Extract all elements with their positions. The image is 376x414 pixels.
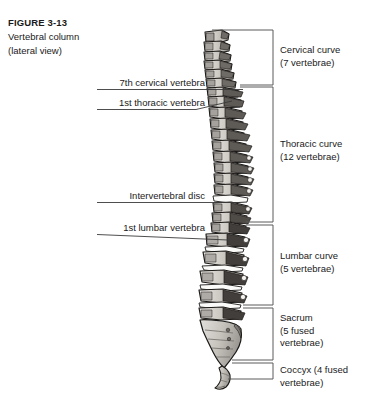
right-label-lumbar-curve: Lumbar curve (5 vertebrae) xyxy=(280,250,338,275)
right-label-line1: Cervical curve xyxy=(280,44,340,57)
bracket-coccyx xyxy=(228,363,273,379)
figure-vertebral-column: FIGURE 3-13 Vertebral column (lateral vi… xyxy=(0,0,376,414)
right-label-line1: Thoracic curve xyxy=(280,138,342,151)
bracket-cervical-curve xyxy=(212,30,273,85)
right-label-line1: Sacrum xyxy=(280,312,323,325)
right-label-line2: (5 vertebrae) xyxy=(280,263,338,276)
right-label-sacrum: Sacrum (5 fused vertebrae) xyxy=(280,312,323,350)
right-label-cervical-curve: Cervical curve (7 vertebrae) xyxy=(280,44,340,69)
right-label-line2: (12 vertebrae) xyxy=(280,151,342,164)
right-label-thoracic-curve: Thoracic curve (12 vertebrae) xyxy=(280,138,342,163)
right-label-line1: Coccyx (4 fused xyxy=(280,364,348,377)
right-label-line2: (7 vertebrae) xyxy=(280,57,340,70)
right-label-line2: vertebrae) xyxy=(280,377,348,390)
bracket-lumbar-curve xyxy=(243,225,273,305)
right-label-line2: (5 fused xyxy=(280,325,323,338)
bracket-thoracic-curve xyxy=(240,87,273,222)
right-label-coccyx: Coccyx (4 fused vertebrae) xyxy=(280,364,348,389)
right-label-line3: vertebrae) xyxy=(280,337,323,350)
right-label-line1: Lumbar curve xyxy=(280,250,338,263)
bracket-sacrum xyxy=(232,308,273,360)
